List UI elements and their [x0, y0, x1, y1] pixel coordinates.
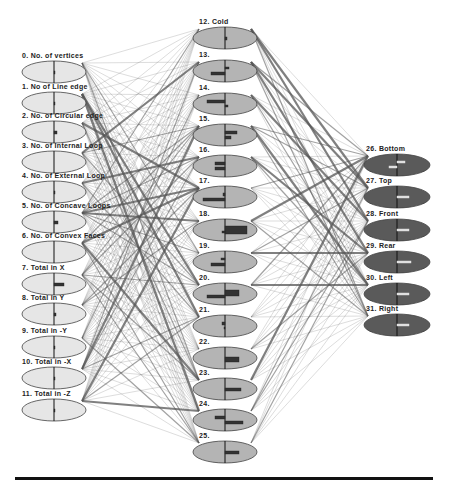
weight-bar [225, 37, 227, 40]
weight-bar [225, 357, 239, 362]
node-input-11: 11. Total in -Z [22, 390, 86, 421]
weight-bar [397, 261, 411, 263]
edge [251, 95, 368, 221]
node-label: 22. [199, 338, 210, 345]
node-label: 28. Front [366, 210, 399, 217]
bottom-divider-line [15, 477, 433, 480]
edge [82, 253, 199, 401]
node-hidden-23: 23. [193, 369, 257, 400]
node-label: 25. [199, 432, 210, 439]
node-hidden-20: 20. [193, 274, 257, 305]
edge [82, 29, 199, 63]
node-label: 4. No. of External Loop [22, 172, 105, 180]
weight-bar [225, 290, 239, 296]
node-label: 27. Top [366, 177, 392, 185]
edge [251, 285, 368, 443]
node-label: 8. Total in Y [22, 294, 65, 301]
edge [82, 153, 199, 349]
node-label: 17. [199, 177, 210, 184]
node-label: 16. [199, 146, 210, 153]
node-label: 9. Total in -Y [22, 327, 67, 334]
node-label: 30. Left [366, 274, 393, 281]
weight-bar [221, 258, 225, 260]
node-output-30: 30. Left [364, 274, 430, 305]
node-input-1: 1. No of Line edge [22, 83, 88, 114]
node-label: 1. No of Line edge [22, 83, 88, 91]
weight-bar [225, 105, 228, 107]
weight-bar [54, 191, 55, 194]
node-label: 18. [199, 210, 210, 217]
node-hidden-17: 17. [193, 177, 257, 208]
node-label: 15. [199, 115, 210, 122]
weight-bar [54, 71, 55, 74]
weight-bar [224, 327, 225, 329]
weight-bar [225, 421, 243, 424]
node-label: 5. No. of Concave Loops [22, 202, 111, 210]
node-output-29: 29. Rear [364, 242, 430, 273]
node-input-8: 8. Total in Y [22, 294, 86, 325]
node-label: 7. Total in X [22, 264, 65, 271]
weight-bar [215, 162, 225, 165]
weight-bar [397, 293, 409, 295]
edge [251, 156, 368, 317]
node-label: 3. No. of Internal Loop [22, 142, 103, 150]
node-hidden-16: 16. [193, 146, 257, 177]
weight-bar [211, 263, 225, 266]
weight-bar [203, 198, 225, 201]
edge [82, 401, 199, 411]
node-label: 24. [199, 400, 210, 407]
node-input-7: 7. Total in X [22, 264, 86, 295]
weight-bar [223, 193, 225, 196]
edge [251, 156, 368, 411]
edge [251, 221, 368, 443]
node-output-28: 28. Front [364, 210, 430, 241]
weight-bar [215, 167, 225, 170]
node-label: 29. Rear [366, 242, 396, 249]
node-label: 10. Total in -X [22, 358, 72, 365]
node-label: 31. Right [366, 305, 399, 313]
node-hidden-24: 24. [193, 400, 257, 431]
weight-bar [222, 322, 225, 325]
node-hidden-12: 12. Cold [193, 18, 257, 49]
node-hidden-21: 21. [193, 306, 257, 337]
weight-bar [211, 72, 225, 75]
node-input-10: 10. Total in -X [22, 358, 86, 389]
node-label: 2. No. of Circular edge [22, 112, 103, 120]
edge [82, 29, 199, 369]
weight-bar [54, 221, 58, 224]
edge [82, 349, 199, 401]
edge [251, 188, 368, 443]
edge [82, 62, 199, 63]
node-label: 23. [199, 369, 210, 376]
weight-bar [397, 324, 409, 326]
edge [82, 63, 199, 95]
weight-bar [54, 409, 55, 412]
node-hidden-18: 18. [193, 210, 257, 241]
weight-bar [225, 451, 239, 454]
node-hidden-14: 14. [193, 84, 257, 115]
weight-bar [225, 388, 241, 391]
weight-bar [222, 231, 225, 233]
node-label: 26. Bottom [366, 145, 405, 152]
weight-bar [397, 229, 409, 231]
weight-bar [225, 226, 247, 234]
weight-bar [54, 283, 64, 286]
weight-bar [397, 161, 405, 163]
node-hidden-25: 25. [193, 432, 257, 463]
edge [251, 95, 368, 156]
node-input-9: 9. Total in -Y [22, 327, 86, 358]
weight-bar [225, 136, 231, 139]
weight-bar [225, 131, 237, 134]
node-hidden-13: 13. [193, 51, 257, 82]
weight-bar [207, 295, 225, 298]
node-input-0: 0. No. of vertices [22, 52, 86, 83]
weight-bar [215, 416, 225, 419]
node-hidden-19: 19. [193, 242, 257, 273]
weight-bar [207, 100, 225, 103]
weight-bar [397, 196, 409, 198]
node-label: 11. Total in -Z [22, 390, 71, 397]
node-input-3: 3. No. of Internal Loop [22, 142, 103, 173]
edge [251, 316, 368, 411]
node-label: 0. No. of vertices [22, 52, 83, 59]
weight-bar [389, 166, 397, 168]
